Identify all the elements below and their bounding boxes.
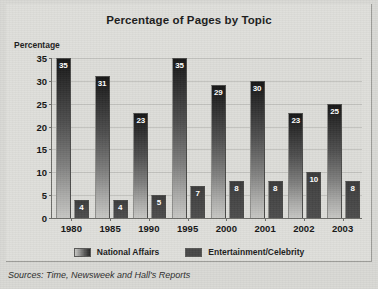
bar-value-label: 29 — [212, 88, 225, 97]
bar-value-label: 8 — [230, 184, 243, 193]
bar: 8 — [345, 181, 360, 218]
legend-swatch — [185, 248, 202, 257]
y-tick-label: 25 — [36, 98, 47, 109]
x-tick-label: 2000 — [216, 223, 237, 234]
bar-group: 298 — [207, 58, 246, 218]
legend-swatch — [74, 248, 91, 257]
y-axis-label: Percentage — [14, 40, 60, 50]
bar-group: 2310 — [285, 58, 324, 218]
x-tick-mark — [226, 218, 227, 221]
bar-group: 235 — [130, 58, 169, 218]
bar: 23 — [133, 113, 148, 218]
bar: 8 — [229, 181, 244, 218]
bar-value-label: 23 — [289, 116, 302, 125]
bar-value-label: 4 — [114, 203, 127, 212]
bar-group: 314 — [91, 58, 130, 218]
bar: 23 — [288, 113, 303, 218]
y-tick-mark — [49, 218, 52, 219]
y-tick-label: 20 — [36, 121, 47, 132]
bar: 29 — [211, 85, 226, 218]
bar: 35 — [56, 58, 71, 218]
bar: 7 — [190, 186, 205, 218]
y-tick-label: 10 — [36, 167, 47, 178]
bar-value-label: 25 — [328, 107, 341, 116]
bar: 31 — [95, 76, 110, 218]
x-tick-mark — [71, 218, 72, 221]
bar: 30 — [250, 81, 265, 218]
bar-group: 308 — [246, 58, 285, 218]
bar-value-label: 5 — [152, 198, 165, 207]
x-tick-label: 1990 — [138, 223, 159, 234]
bar: 4 — [113, 200, 128, 218]
y-tick-label: 5 — [42, 190, 47, 201]
bar-value-label: 30 — [251, 84, 264, 93]
x-tick-mark — [304, 218, 305, 221]
source-note: Sources: Time, Newsweek and Hall's Repor… — [8, 270, 190, 280]
bar-group: 354 — [52, 58, 91, 218]
y-tick-label: 35 — [36, 53, 47, 64]
chart-title: Percentage of Pages by Topic — [6, 14, 372, 26]
x-tick-mark — [188, 218, 189, 221]
bar: 10 — [306, 172, 321, 218]
bar-value-label: 7 — [191, 189, 204, 198]
x-tick-label: 2002 — [293, 223, 314, 234]
x-tick-label: 2003 — [332, 223, 353, 234]
bar: 25 — [327, 104, 342, 218]
bar: 5 — [151, 195, 166, 218]
bar: 4 — [74, 200, 89, 218]
bar-value-label: 8 — [346, 184, 359, 193]
bar-group: 258 — [323, 58, 362, 218]
legend-label: Entertainment/Celebrity — [208, 247, 304, 257]
bar-value-label: 35 — [173, 61, 186, 70]
bar-value-label: 35 — [57, 61, 70, 70]
bar-value-label: 31 — [96, 79, 109, 88]
chart-card: Percentage of Pages by Topic Percentage … — [6, 4, 372, 262]
legend-item[interactable]: National Affairs — [74, 247, 160, 257]
x-tick-label: 1980 — [61, 223, 82, 234]
y-tick-label: 30 — [36, 75, 47, 86]
bar-value-label: 8 — [269, 184, 282, 193]
x-tick-label: 1985 — [100, 223, 121, 234]
legend-label: National Affairs — [97, 247, 160, 257]
plot-area: 05101520253035 3543142353572983082310258… — [51, 58, 362, 219]
y-tick-label: 0 — [42, 213, 47, 224]
x-tick-label: 1995 — [177, 223, 198, 234]
bar: 35 — [172, 58, 187, 218]
x-tick-mark — [149, 218, 150, 221]
bar-value-label: 10 — [307, 175, 320, 184]
bar-group: 357 — [168, 58, 207, 218]
x-tick-mark — [265, 218, 266, 221]
x-tick-label: 2001 — [255, 223, 276, 234]
chart-legend: National AffairsEntertainment/Celebrity — [6, 247, 372, 257]
legend-item[interactable]: Entertainment/Celebrity — [185, 247, 304, 257]
bar: 8 — [268, 181, 283, 218]
y-tick-label: 15 — [36, 144, 47, 155]
x-tick-mark — [343, 218, 344, 221]
x-tick-mark — [110, 218, 111, 221]
bar-value-label: 4 — [75, 203, 88, 212]
bar-value-label: 23 — [134, 116, 147, 125]
chart-screenshot: Percentage of Pages by Topic Percentage … — [0, 0, 378, 289]
